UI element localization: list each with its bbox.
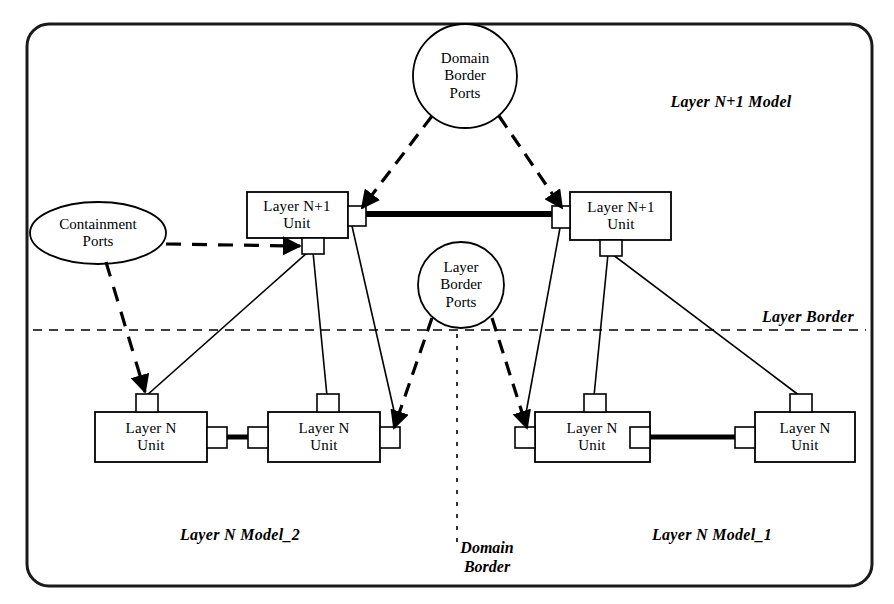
- port-n1left-bottom[interactable]: [302, 238, 324, 254]
- domain-border-line2: Border: [460, 557, 513, 576]
- unit-label-line2: Unit: [126, 437, 177, 454]
- unit-label-layer-n-1: Layer N Unit: [126, 420, 177, 454]
- unit-label-layer-n-3: Layer N Unit: [567, 420, 618, 454]
- port-label-line2: Ports: [59, 233, 137, 250]
- dash-containment-to-n1left: [166, 244, 300, 246]
- port-n2-top[interactable]: [317, 394, 339, 412]
- port-n4-top[interactable]: [790, 394, 812, 412]
- domain-border-line1: Domain: [460, 538, 513, 557]
- port-n2-right[interactable]: [380, 427, 400, 448]
- link-n1left-to-n1: [146, 252, 308, 396]
- unit-label-line1: Layer N: [567, 420, 618, 437]
- port-label-line3: Ports: [440, 294, 482, 311]
- port-n1right-bottom[interactable]: [600, 240, 622, 256]
- unit-label-line2: Unit: [587, 216, 654, 233]
- diagram-canvas: Layer N+1 Unit Layer N+1 Unit Layer N Un…: [0, 0, 894, 604]
- port-n3-top[interactable]: [584, 394, 606, 412]
- port-label-line2: Border: [441, 67, 489, 84]
- link-n1left-to-n2: [313, 252, 327, 396]
- unit-label-line2: Unit: [567, 437, 618, 454]
- link-n1right-to-n3: [594, 254, 608, 396]
- port-n3-right[interactable]: [630, 427, 650, 448]
- layer-border-ports-label: Layer Border Ports: [440, 259, 482, 311]
- unit-label-line2: Unit: [299, 437, 350, 454]
- port-n1left-right[interactable]: [348, 206, 366, 226]
- port-label-line1: Layer: [440, 259, 482, 276]
- unit-label-line1: Layer N+1: [263, 198, 330, 215]
- port-n3-left[interactable]: [515, 427, 535, 448]
- label-layer-np1-model: Layer N+1 Model: [670, 93, 791, 111]
- link-n1right-left-to-n3-left: [524, 228, 560, 424]
- port-n1-right[interactable]: [207, 427, 227, 448]
- port-label-line1: Domain: [441, 50, 489, 67]
- label-domain-border: Domain Border: [460, 538, 513, 576]
- port-label-line1: Containment: [59, 216, 137, 233]
- domain-border-ports-label: Domain Border Ports: [441, 50, 489, 102]
- port-n4-left[interactable]: [735, 427, 755, 448]
- dash-domain-to-n1left: [362, 116, 432, 208]
- unit-label-line1: Layer N: [780, 420, 831, 437]
- unit-label-line1: Layer N: [126, 420, 177, 437]
- unit-label-line1: Layer N: [299, 420, 350, 437]
- label-layer-n-model-2: Layer N Model_2: [180, 526, 300, 544]
- containment-ports-label: Containment Ports: [59, 216, 137, 251]
- label-layer-n-model-1: Layer N Model_1: [652, 526, 772, 544]
- port-n2-left[interactable]: [248, 427, 268, 448]
- unit-label-layer-n1-right: Layer N+1 Unit: [587, 199, 654, 233]
- port-label-line3: Ports: [441, 85, 489, 102]
- unit-label-line2: Unit: [263, 215, 330, 232]
- dash-layerports-to-n2: [394, 318, 432, 428]
- unit-label-layer-n1-left: Layer N+1 Unit: [263, 198, 330, 232]
- dash-layerports-to-n3: [492, 318, 527, 428]
- unit-label-layer-n-4: Layer N Unit: [780, 420, 831, 454]
- dash-domain-to-n1right: [499, 116, 562, 208]
- port-n1-top[interactable]: [136, 394, 158, 412]
- link-n1left-right-to-n2-right: [352, 226, 397, 424]
- dash-containment-to-n1unit: [106, 262, 145, 392]
- unit-label-line1: Layer N+1: [587, 199, 654, 216]
- unit-label-line2: Unit: [780, 437, 831, 454]
- port-label-line2: Border: [440, 276, 482, 293]
- unit-label-layer-n-2: Layer N Unit: [299, 420, 350, 454]
- label-layer-border: Layer Border: [762, 308, 854, 326]
- port-n1right-left[interactable]: [552, 206, 570, 228]
